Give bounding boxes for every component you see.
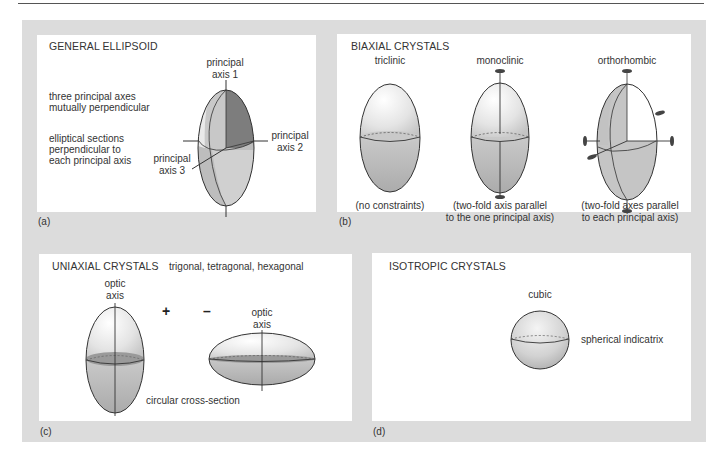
axis-1-label: principal axis 1 bbox=[200, 57, 250, 80]
negative-sign: – bbox=[203, 303, 211, 319]
positive-sign: + bbox=[162, 303, 170, 319]
optic-axis-left-line2: axis bbox=[95, 290, 135, 302]
orthorhombic-caption: (two-fold axes parallel to each principa… bbox=[575, 200, 685, 223]
optic-axis-right-line2: axis bbox=[242, 319, 282, 331]
optic-axis-right-line1: optic bbox=[242, 307, 282, 319]
axis-3-label-line1: principal bbox=[150, 153, 194, 165]
panel-a-note-2: mutually perpendicular bbox=[49, 102, 150, 114]
panel-tag-a: (a) bbox=[38, 216, 50, 227]
axis-2-label-line2: axis 2 bbox=[268, 142, 312, 154]
circular-cross-section-label: circular cross-section bbox=[146, 395, 240, 407]
panel-c-title: UNIAXIAL CRYSTALS bbox=[52, 260, 159, 272]
optic-axis-label-positive: optic axis bbox=[95, 278, 135, 301]
panel-tag-c: (c) bbox=[40, 426, 52, 437]
axis-1-label-line1: principal bbox=[200, 57, 250, 69]
orthorhombic-caption-line2: to each principal axis) bbox=[575, 212, 685, 224]
panel-b-title: BIAXIAL CRYSTALS bbox=[351, 40, 449, 52]
panel-a-title: GENERAL ELLIPSOID bbox=[49, 40, 158, 52]
panel-a-note-5: each principal axis bbox=[49, 155, 131, 167]
panel-tag-d: (d) bbox=[373, 426, 385, 437]
monoclinic-caption-line1: (two-fold axis parallel bbox=[440, 200, 560, 212]
axis-3-label: principal axis 3 bbox=[150, 153, 194, 176]
panel-tag-b: (b) bbox=[339, 216, 351, 227]
orthorhombic-label: orthorhombic bbox=[587, 55, 667, 67]
axis-3-label-line2: axis 3 bbox=[150, 165, 194, 177]
top-rule bbox=[18, 3, 704, 4]
spherical-indicatrix-label: spherical indicatrix bbox=[581, 334, 663, 346]
cubic-label: cubic bbox=[520, 289, 560, 301]
panel-d-title: ISOTROPIC CRYSTALS bbox=[389, 260, 506, 272]
panel-general-ellipsoid bbox=[37, 35, 316, 212]
axis-2-label-line1: principal bbox=[268, 130, 312, 142]
monoclinic-label: monoclinic bbox=[465, 55, 535, 67]
orthorhombic-caption-line1: (two-fold axes parallel bbox=[575, 200, 685, 212]
panel-a-note-1: three principal axes bbox=[49, 91, 136, 103]
axis-1-label-line2: axis 1 bbox=[200, 69, 250, 81]
triclinic-label: triclinic bbox=[355, 55, 425, 67]
panel-a-note-3: elliptical sections bbox=[49, 133, 124, 145]
optic-axis-label-negative: optic axis bbox=[242, 307, 282, 330]
panel-c-subtitle: trigonal, tetragonal, hexagonal bbox=[169, 261, 304, 273]
optic-axis-left-line1: optic bbox=[95, 278, 135, 290]
axis-2-label: principal axis 2 bbox=[268, 130, 312, 153]
panel-a-note-4: perpendicular to bbox=[49, 144, 121, 156]
monoclinic-caption: (two-fold axis parallel to the one princ… bbox=[440, 200, 560, 223]
monoclinic-caption-line2: to the one principal axis) bbox=[440, 212, 560, 224]
triclinic-caption: (no constraints) bbox=[345, 200, 435, 212]
